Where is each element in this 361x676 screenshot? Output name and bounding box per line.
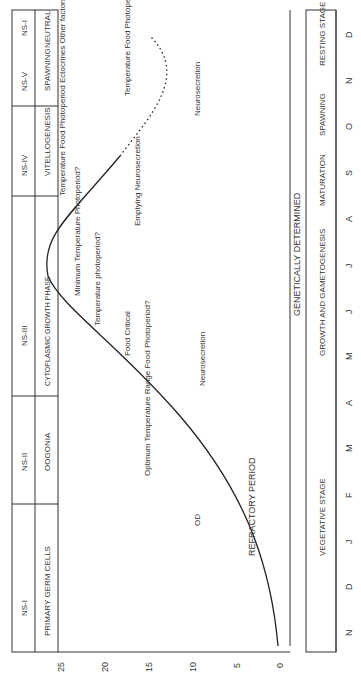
svg-text:NS-II: NS-II bbox=[20, 453, 29, 471]
svg-text:A: A bbox=[344, 400, 354, 406]
svg-text:10: 10 bbox=[188, 662, 198, 672]
svg-text:S: S bbox=[344, 170, 354, 176]
refractory-label: REFRACTORY PERIOD bbox=[247, 457, 257, 556]
rotated-diagram: NS-I NS-II NS-III NS-IV NS-V NS-I PRIMAR… bbox=[0, 0, 361, 676]
gonad-index-diagram: NS-I NS-II NS-III NS-IV NS-V NS-I PRIMAR… bbox=[0, 0, 361, 676]
stage-labels: NS-I NS-II NS-III NS-IV NS-V NS-I PRIMAR… bbox=[20, 10, 52, 636]
svg-text:Neurosecretion: Neurosecretion bbox=[193, 62, 202, 116]
svg-text:Temperature Food Photoperiod?: Temperature Food Photoperiod? bbox=[123, 0, 132, 96]
svg-text:Emptying Neurosecretion: Emptying Neurosecretion bbox=[133, 136, 142, 226]
month-labels: N D J F M A M J J A S O N D bbox=[344, 31, 354, 636]
svg-text:VITELLOGENESIS: VITELLOGENESIS bbox=[43, 108, 52, 176]
svg-text:Neurosecretion: Neurosecretion bbox=[198, 332, 207, 386]
svg-text:NS-V: NS-V bbox=[20, 71, 29, 91]
svg-text:M: M bbox=[344, 445, 354, 453]
svg-text:GROWTH AND GAMETOGENESIS: GROWTH AND GAMETOGENESIS bbox=[318, 229, 327, 356]
svg-text:D: D bbox=[344, 31, 354, 38]
svg-text:25: 25 bbox=[56, 662, 66, 672]
svg-text:J: J bbox=[344, 310, 354, 315]
svg-text:SPAWNING: SPAWNING bbox=[318, 93, 327, 136]
svg-text:A: A bbox=[344, 216, 354, 222]
svg-text:N: N bbox=[344, 630, 354, 637]
bottom-labels: VEGETATIVE STAGE GROWTH AND GAMETOGENESI… bbox=[318, 2, 327, 556]
svg-text:F: F bbox=[344, 492, 354, 498]
genetic-label: GENETICALLY DETERMINED bbox=[292, 192, 302, 316]
annotations: Optimum Temperature Range Food Photoperi… bbox=[58, 0, 207, 526]
svg-text:0: 0 bbox=[275, 663, 285, 668]
svg-text:M: M bbox=[344, 353, 354, 361]
svg-text:Minimum Temperature Photoperio: Minimum Temperature Photoperiod? bbox=[73, 166, 82, 296]
svg-text:OD: OD bbox=[193, 514, 202, 526]
svg-text:Temperature Food Photoperiod E: Temperature Food Photoperiod Ectocrines … bbox=[58, 0, 67, 196]
svg-text:NS-IV: NS-IV bbox=[20, 154, 29, 176]
svg-text:O: O bbox=[344, 123, 354, 130]
svg-text:RESTING STAGE: RESTING STAGE bbox=[318, 2, 327, 66]
y-ticks: 0 5 10 15 20 25 bbox=[56, 662, 285, 672]
svg-text:SPAWNING: SPAWNING bbox=[43, 48, 52, 91]
svg-text:J: J bbox=[344, 540, 354, 545]
svg-text:Optimum Temperature Range Food: Optimum Temperature Range Food Photoperi… bbox=[143, 300, 152, 476]
svg-text:20: 20 bbox=[100, 662, 110, 672]
svg-text:NEUTRAL: NEUTRAL bbox=[43, 10, 52, 48]
svg-text:VEGETATIVE STAGE: VEGETATIVE STAGE bbox=[318, 478, 327, 556]
svg-text:15: 15 bbox=[144, 662, 154, 672]
svg-text:PRIMARY GERM CELLS: PRIMARY GERM CELLS bbox=[43, 546, 52, 636]
svg-text:NS-III: NS-III bbox=[20, 326, 29, 346]
svg-text:5: 5 bbox=[232, 663, 242, 668]
svg-text:NS-I: NS-I bbox=[20, 600, 29, 616]
svg-text:N: N bbox=[344, 78, 354, 85]
svg-text:J: J bbox=[344, 264, 354, 269]
svg-text:D: D bbox=[344, 583, 354, 590]
svg-text:NS-I: NS-I bbox=[20, 20, 29, 36]
svg-text:Food Critical: Food Critical bbox=[123, 311, 132, 356]
svg-text:MATURATION: MATURATION bbox=[318, 154, 327, 206]
svg-text:Temperature photoperiod?: Temperature photoperiod? bbox=[93, 232, 102, 326]
svg-text:OOGONIA: OOGONIA bbox=[43, 432, 52, 471]
svg-text:CYTOPLASMIC GROWTH PHASE: CYTOPLASMIC GROWTH PHASE bbox=[44, 276, 51, 386]
